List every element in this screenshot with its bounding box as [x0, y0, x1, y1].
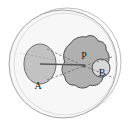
axis-line — [40, 64, 85, 65]
convergence-point-p — [82, 64, 85, 67]
figure-container: A P B — [0, 0, 129, 128]
label-a: A — [34, 80, 42, 91]
label-p: P — [81, 50, 87, 61]
label-b: B — [99, 67, 106, 78]
diagram-canvas: A P B — [0, 0, 129, 128]
